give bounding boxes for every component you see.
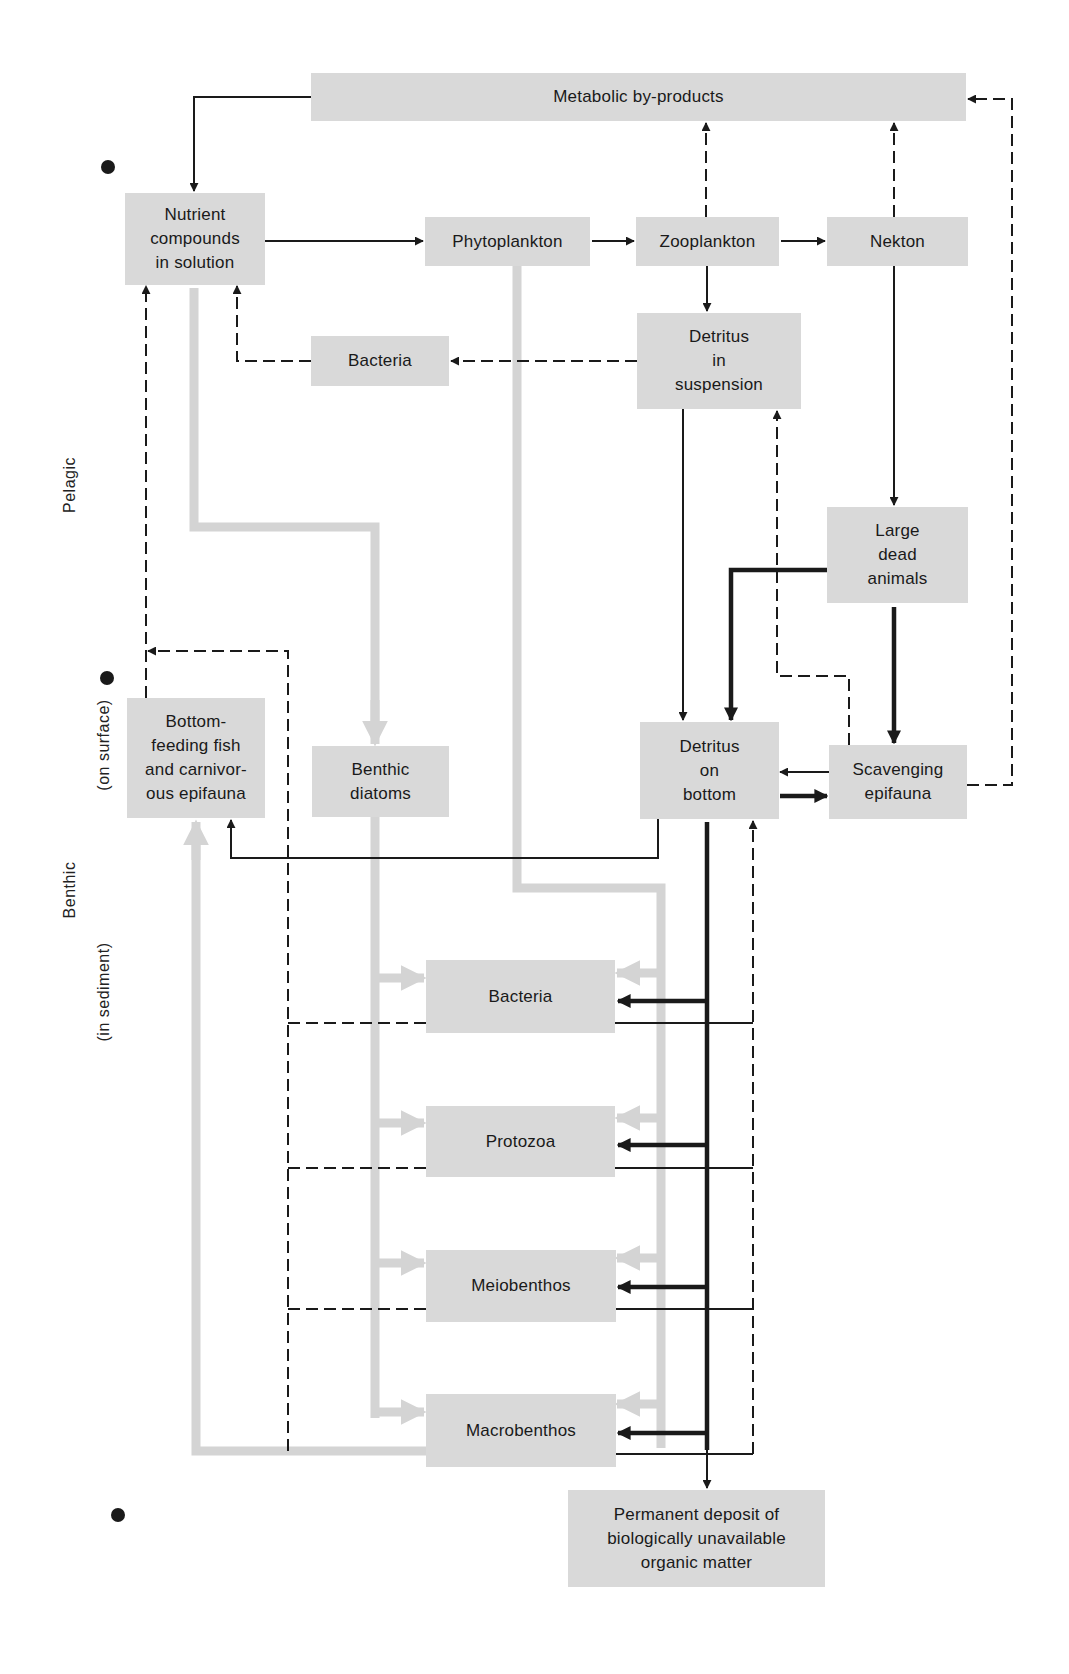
zone-boundary-dot-top (101, 160, 115, 174)
node-permanent-deposit: Permanent deposit of biologically unavai… (568, 1490, 825, 1587)
zone-boundary-dot-middle (100, 671, 114, 685)
node-large-dead-animals: Large dead animals (827, 507, 968, 603)
node-benthic-diatoms: Benthic diatoms (312, 746, 449, 817)
node-nutrient-compounds: Nutrient compounds in solution (125, 193, 265, 285)
node-metabolic-by-products: Metabolic by-products (311, 73, 966, 121)
node-bacteria-sediment: Bacteria (426, 960, 615, 1033)
node-phytoplankton: Phytoplankton (425, 217, 590, 266)
node-detritus-on-bottom: Detritus on bottom (640, 722, 779, 819)
node-zooplankton: Zooplankton (636, 217, 779, 266)
node-label: Detritus on bottom (679, 735, 739, 807)
edge-macro-bottomfeeding (196, 842, 426, 1451)
node-label: Protozoa (486, 1130, 556, 1154)
node-meiobenthos: Meiobenthos (426, 1250, 616, 1322)
zone-label-pelagic: Pelagic (61, 457, 79, 513)
node-label: Benthic diatoms (350, 758, 411, 806)
node-label: Metabolic by-products (553, 85, 724, 109)
node-label: Meiobenthos (471, 1274, 571, 1298)
node-label: Nutrient compounds in solution (150, 203, 240, 275)
node-label: Large dead animals (868, 519, 928, 591)
node-label: Phytoplankton (452, 230, 562, 254)
zone-label-in-sediment: (in sediment) (95, 943, 113, 1042)
node-label: Detritus in suspension (675, 325, 763, 397)
node-protozoa: Protozoa (426, 1106, 615, 1177)
node-macrobenthos: Macrobenthos (426, 1394, 616, 1467)
node-label: Nekton (870, 230, 925, 254)
node-bacteria-pelagic: Bacteria (311, 336, 449, 386)
zone-boundary-dot-bottom (111, 1508, 125, 1522)
node-nekton: Nekton (827, 217, 968, 266)
node-label: Permanent deposit of biologically unavai… (607, 1503, 786, 1575)
node-scavenging-epifauna: Scavenging epifauna (829, 745, 967, 819)
zone-label-benthic: Benthic (61, 862, 79, 919)
node-bottom-feeding-fish: Bottom- feeding fish and carnivor- ous e… (127, 698, 265, 818)
node-label: Macrobenthos (466, 1419, 576, 1443)
node-detritus-in-suspension: Detritus in suspension (637, 313, 801, 409)
node-label: Zooplankton (660, 230, 756, 254)
node-label: Bacteria (489, 985, 553, 1009)
node-label: Scavenging epifauna (853, 758, 944, 806)
node-label: Bottom- feeding fish and carnivor- ous e… (145, 710, 247, 806)
node-label: Bacteria (348, 349, 412, 373)
zone-label-on-surface: (on surface) (95, 699, 113, 790)
